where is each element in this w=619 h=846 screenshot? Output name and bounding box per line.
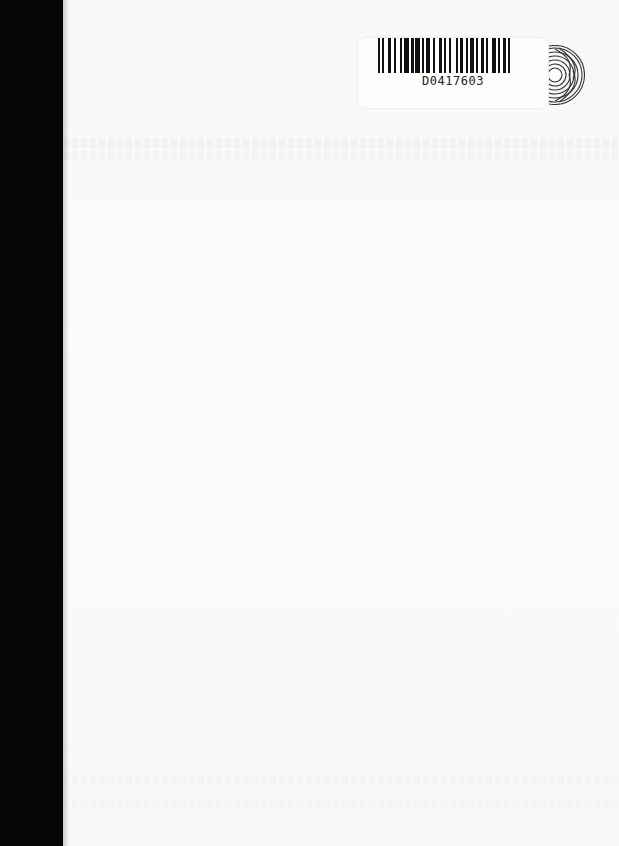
show-through-text (63, 138, 619, 148)
barcode-number: D0417603 (358, 74, 548, 88)
show-through-text (63, 775, 619, 785)
show-through-text (63, 800, 619, 810)
barcode-label: D0417603 (358, 38, 548, 108)
concentric-arc-disc-icon (549, 45, 585, 105)
show-through-text (63, 150, 619, 160)
blank-page (63, 0, 619, 846)
barcode-bars (378, 38, 522, 73)
book-spine-edge (0, 0, 63, 846)
